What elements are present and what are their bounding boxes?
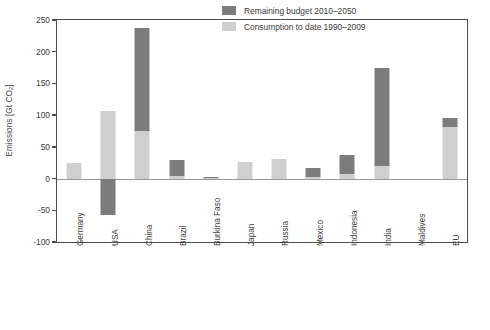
bar-segment-consumption (203, 178, 218, 179)
legend-item-consumption-to-date: Consumption to date 1990–2009 (222, 20, 366, 33)
x-axis-label: Japan (247, 224, 256, 246)
bar-group (433, 20, 467, 242)
y-axis-tick-label: 200 (36, 48, 50, 56)
bar-segment-consumption (272, 159, 287, 179)
legend-swatch-light (222, 22, 236, 31)
bar-group (228, 20, 262, 242)
bar-segment-remaining (135, 28, 150, 131)
plot-area: 250200150100500-50-100 (56, 19, 468, 243)
x-axis-label: Maldives (418, 214, 427, 246)
y-axis-tick-label: 100 (36, 111, 50, 119)
legend-label-consumption-to-date: Consumption to date 1990–2009 (244, 22, 366, 32)
bar-segment-consumption (442, 127, 457, 179)
bar-segment-remaining (306, 168, 321, 177)
bar-segment-consumption (101, 111, 116, 179)
x-axis-label: Germany (76, 212, 85, 246)
y-axis-tick-label: 0 (45, 174, 50, 182)
bar-segment-remaining (169, 160, 184, 176)
x-axis-label: USA (111, 229, 120, 246)
bar-group (194, 20, 228, 242)
bar-series-layer (57, 20, 467, 242)
bar-segment-consumption (340, 174, 355, 178)
y-axis-tick-label: -50 (38, 206, 50, 214)
bar-group (296, 20, 330, 242)
bar-segment-consumption (237, 162, 252, 178)
x-axis-label: Mexico (316, 220, 325, 246)
legend-swatch-dark (222, 6, 236, 15)
x-axis-label: India (384, 228, 393, 246)
x-axis-label: China (145, 225, 154, 246)
bar-segment-remaining (203, 177, 218, 178)
bar-group (330, 20, 364, 242)
bar-segment-consumption (306, 177, 321, 178)
bar-segment-consumption (135, 131, 150, 179)
x-axis-label: Brazil (179, 226, 188, 246)
y-axis-tick-label: -100 (33, 238, 50, 246)
bar-group (365, 20, 399, 242)
y-axis-tick-label: 150 (36, 79, 50, 87)
bar-segment-remaining (374, 68, 389, 166)
bar-group (160, 20, 194, 242)
x-axis-label: Russia (281, 221, 290, 246)
bar-segment-remaining (340, 155, 355, 174)
chart-legend: Remaining budget 2010–2050 Consumption t… (222, 4, 366, 36)
y-axis-tick-label: 50 (41, 143, 50, 151)
bar-segment-consumption (67, 163, 82, 179)
x-axis-label: EU (452, 235, 461, 246)
x-axis-label: Burkina Faso (213, 198, 222, 246)
legend-label-remaining-budget: Remaining budget 2010–2050 (244, 6, 356, 16)
y-axis-title: Emissions [Gt CO₂] (2, 0, 16, 240)
bar-segment-consumption (374, 166, 389, 179)
emissions-bar-chart: Emissions [Gt CO₂] 250200150100500-50-10… (0, 0, 490, 330)
x-axis-labels: GermanyUSAChinaBrazilBurkina FasoJapanRu… (56, 246, 468, 330)
bar-segment-remaining (442, 118, 457, 127)
bar-group (399, 20, 433, 242)
legend-item-remaining-budget: Remaining budget 2010–2050 (222, 4, 366, 17)
bar-group (262, 20, 296, 242)
bar-group (91, 20, 125, 242)
bar-group (125, 20, 159, 242)
x-axis-label: Indonesia (350, 210, 359, 246)
bar-segment-remaining-negative (101, 179, 116, 215)
y-axis-tick-label: 250 (36, 16, 50, 24)
y-axis-title-text: Emissions [Gt CO₂] (5, 84, 14, 156)
bar-group (57, 20, 91, 242)
bar-segment-consumption (169, 176, 184, 179)
